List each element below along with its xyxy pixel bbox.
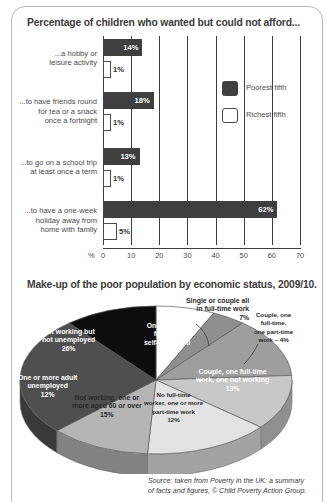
x-tick-label-0: 0 bbox=[93, 251, 113, 260]
x-tick-label-20: 20 bbox=[149, 251, 169, 260]
pie-slice-label-line: in full-time work bbox=[186, 305, 249, 313]
pie-slice-label-line: Couple, one full-time bbox=[196, 368, 269, 376]
bar-value-richest-0: 1% bbox=[113, 61, 124, 78]
x-tick-label-70: 70 bbox=[290, 251, 310, 260]
pie-slice-label-3: No full-timeworker, one or morepart-time… bbox=[144, 391, 203, 425]
x-tick-label-10: 10 bbox=[121, 251, 141, 260]
category-label-line: for tea or a snack bbox=[3, 107, 97, 117]
x-tick-label-30: 30 bbox=[177, 251, 197, 260]
pie-slice-label-5: One or more adultunemployed12% bbox=[18, 374, 77, 399]
figure-page: Percentage of children who wanted but co… bbox=[0, 0, 334, 502]
x-tick-label-60: 60 bbox=[262, 251, 282, 260]
source-note: Source: taken from Poverty in the UK: a … bbox=[148, 477, 318, 496]
category-label-1: ...to have friends roundfor tea or a sna… bbox=[3, 97, 97, 126]
pie-chart: Single or couple allin full-time work7%C… bbox=[0, 294, 334, 474]
bar-richest-2 bbox=[103, 170, 111, 187]
pie-slice-label-line: 7% bbox=[186, 314, 249, 322]
category-label-line: ...to have a one-week bbox=[3, 206, 97, 216]
category-label-line: home with family bbox=[3, 225, 97, 235]
bar-value-poorest-0: 14% bbox=[123, 39, 138, 56]
frame-right-edge-bottom bbox=[322, 470, 323, 502]
pie-slice-label-6: Not working butnot unemployed26% bbox=[42, 328, 95, 353]
bar-richest-1 bbox=[103, 114, 111, 131]
pie-slice-label-1: Couple, onefull-time,one part-timework –… bbox=[254, 311, 293, 345]
bar-richest-0 bbox=[103, 61, 111, 78]
legend-label-poorest-fifth: Poorest fifth bbox=[246, 83, 287, 92]
pie-slice-label-line: worker, one or more bbox=[144, 399, 203, 407]
pie-slice-label-line: not unemployed bbox=[42, 336, 95, 344]
pie-slice-label-line: more aged 60 or over bbox=[72, 402, 142, 410]
bar-value-richest-2: 1% bbox=[113, 170, 124, 187]
bar-richest-3 bbox=[103, 223, 117, 240]
pie-slice-label-line: 12% bbox=[18, 391, 77, 399]
category-label-line: at least once a term bbox=[3, 167, 97, 177]
legend-swatch-poorest-fifth-icon bbox=[222, 81, 238, 96]
pie-slice-label-line: full-time, bbox=[254, 319, 293, 327]
x-tick-label-40: 40 bbox=[206, 251, 226, 260]
pie-slice-label-line: One or more adult bbox=[18, 374, 77, 382]
bar-value-poorest-2: 13% bbox=[120, 148, 135, 165]
category-label-line: ...to have friends round bbox=[3, 97, 97, 107]
pie-slice-label-line: 13% bbox=[196, 385, 269, 393]
pie-slice-label-line: 12% bbox=[144, 416, 203, 424]
pie-slice-label-4: Not working, one ormore aged 60 or over1… bbox=[72, 394, 142, 419]
gridline-70 bbox=[300, 36, 301, 245]
pie-slice-label-line: 15% bbox=[72, 411, 142, 419]
bar-poorest-1: 18% bbox=[103, 92, 154, 109]
bar-value-richest-1: 1% bbox=[113, 114, 124, 131]
category-label-2: ...to go on a school tripat least once a… bbox=[3, 158, 97, 177]
legend-label-richest-fifth: Richest fifth bbox=[246, 110, 286, 119]
pie-slice-label-7: One or morefull-timeself-employed11% bbox=[144, 322, 190, 356]
pie-slice-label-line: work – 4% bbox=[254, 336, 293, 344]
pie-slice-label-line: full-time bbox=[144, 330, 190, 338]
bar-poorest-3: 62% bbox=[103, 201, 277, 218]
pie-slice-label-line: Couple, one bbox=[254, 311, 293, 319]
category-label-line: ...to go on a school trip bbox=[3, 158, 97, 168]
category-label-line: leisure activity bbox=[3, 58, 97, 68]
category-label-line: once a fortnight bbox=[3, 116, 97, 126]
pie-slice-label-line: self-employed bbox=[144, 339, 190, 347]
pie-slice-label-line: 11% bbox=[144, 347, 190, 355]
pie-slice-label-line: Not working but bbox=[42, 328, 95, 336]
pie-slice-label-line: unemployed bbox=[18, 382, 77, 390]
category-label-3: ...to have a one-weekholiday away fromho… bbox=[3, 206, 97, 235]
bar-poorest-2: 13% bbox=[103, 148, 140, 165]
bar-poorest-0: 14% bbox=[103, 39, 142, 56]
bar-chart-title: Percentage of children who wanted but co… bbox=[27, 17, 300, 28]
category-label-line: ...a hobby or bbox=[3, 49, 97, 59]
bar-chart: 14%1%18%1%13%1%62%5% ...a hobby orleisur… bbox=[0, 36, 334, 261]
pie-slice-label-line: one part-time bbox=[254, 328, 293, 336]
x-tick-label-50: 50 bbox=[234, 251, 254, 260]
frame-left-edge-bottom bbox=[11, 470, 12, 502]
source-line-1: Source: taken from Poverty in the UK: a … bbox=[148, 477, 318, 487]
category-label-line: holiday away from bbox=[3, 216, 97, 226]
pie-slice-label-line: work, one not working bbox=[196, 376, 269, 384]
bar-chart-x-axis-line bbox=[103, 248, 301, 249]
bar-value-poorest-3: 62% bbox=[258, 201, 273, 218]
source-line-2: of facts and figures, © Child Poverty Ac… bbox=[148, 487, 318, 497]
pie-slice-label-line: One or more bbox=[144, 322, 190, 330]
category-label-0: ...a hobby orleisure activity bbox=[3, 49, 97, 68]
pie-slice-label-2: Couple, one full-timework, one not worki… bbox=[196, 368, 269, 393]
pie-slice-label-line: Single or couple all bbox=[186, 297, 249, 305]
bar-value-poorest-1: 18% bbox=[134, 92, 149, 109]
pie-chart-title: Make-up of the poor population by econom… bbox=[27, 279, 317, 290]
pie-slice-label-line: Not working, one or bbox=[72, 394, 142, 402]
pie-slice-label-line: 26% bbox=[42, 345, 95, 353]
legend-swatch-richest-fifth-icon bbox=[222, 108, 238, 123]
pie-slice-label-0: Single or couple allin full-time work7% bbox=[186, 297, 249, 322]
bar-value-richest-3: 5% bbox=[119, 223, 130, 240]
bar-chart-legend: Poorest fifth Richest fifth bbox=[222, 81, 318, 129]
pie-slice-label-line: No full-time bbox=[144, 391, 203, 399]
pie-slice-label-line: part-time work bbox=[144, 408, 203, 416]
